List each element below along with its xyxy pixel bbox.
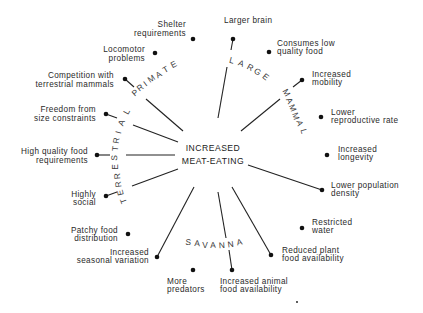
category-letter: A: [194, 238, 200, 248]
label-population-2: density: [331, 189, 360, 198]
connector-animal-food: [218, 192, 226, 238]
label-competition-1: Competition with: [48, 71, 114, 80]
meat-eating-factor-diagram: INCREASED MEAT-EATING: [0, 0, 423, 313]
category-savanna: SAVANNA: [185, 237, 243, 251]
dot-brain: [231, 37, 236, 42]
label-high-quality-1: High quality food: [21, 147, 88, 156]
category-terrestrial: TERRESTRIAL: [109, 107, 132, 205]
label-locomotor-1: Locomotor: [103, 45, 145, 54]
label-patchy-2: distribution: [74, 234, 118, 243]
dot-seasonal: [155, 255, 160, 260]
category-letter: N: [227, 239, 234, 250]
dot-mobility: [300, 78, 305, 83]
category-letter: T: [118, 197, 129, 205]
label-high-quality-2: requirements: [36, 156, 88, 165]
label-consumes-2: quality food: [277, 47, 323, 56]
dot-population: [320, 188, 325, 193]
connector-animal-food-short: [229, 250, 232, 270]
category-letter: A: [237, 58, 246, 70]
center-line-1: INCREASED: [186, 143, 241, 153]
dot-plant-food: [269, 253, 274, 258]
category-letter: I: [113, 130, 123, 135]
category-letter: R: [112, 173, 122, 180]
label-freedom-2: size constraints: [34, 114, 96, 123]
label-competition-2: terrestrial mammals: [35, 80, 114, 89]
connector-mobility: [241, 99, 280, 131]
dot-shelter: [191, 37, 196, 42]
category-letter: T: [161, 64, 170, 75]
stray-mark: [296, 301, 298, 303]
dot-competition: [123, 77, 128, 82]
category-letter: E: [110, 164, 120, 170]
dot-predators: [191, 268, 196, 273]
label-social-2: social: [73, 198, 96, 207]
category-letter: L: [298, 128, 309, 135]
connector-brain: [218, 67, 227, 118]
label-mobility-2: mobility: [312, 78, 343, 87]
connector-social: [132, 169, 178, 186]
label-longevity-2: longevity: [338, 153, 374, 162]
label-plant-food-2: food availability: [282, 254, 344, 263]
category-mammal: MAMMAL: [281, 87, 310, 135]
connector-freedom: [133, 125, 178, 142]
category-letter: S: [185, 237, 192, 247]
category-letter: R: [113, 181, 124, 188]
label-seasonal-2: seasonal variation: [77, 256, 149, 265]
category-letter: L: [228, 55, 235, 66]
category-letter: A: [210, 240, 216, 250]
category-letter: A: [116, 118, 128, 127]
dot-locomotor: [153, 51, 158, 56]
center-line-2: MEAT-EATING: [182, 156, 244, 166]
category-letter: S: [109, 155, 119, 161]
category-letter: A: [236, 237, 244, 248]
label-predators-2: predators: [167, 285, 205, 294]
label-brain: Larger brain: [224, 16, 272, 25]
connector-population: [248, 165, 322, 190]
category-letter: L: [121, 107, 132, 116]
category-letter: N: [218, 240, 225, 250]
dot-reproductive: [319, 115, 324, 120]
label-shelter-2: requirements: [134, 29, 186, 38]
dot-patchy: [126, 232, 131, 237]
dot-animal-food: [230, 268, 235, 273]
category-letter: A: [294, 119, 305, 128]
connector-lines: [97, 39, 322, 270]
central-concept: INCREASED MEAT-EATING: [182, 143, 244, 166]
dot-social: [104, 194, 109, 199]
dot-longevity: [325, 153, 330, 158]
category-letter: E: [261, 71, 272, 83]
dot-high-quality: [95, 153, 100, 158]
factor-labels: Shelter requirements Locomotor problems …: [21, 16, 399, 294]
label-shelter-1: Shelter: [158, 20, 186, 29]
label-freedom-1: Freedom from: [40, 105, 96, 114]
label-reproductive-2: reproductive rate: [331, 116, 398, 125]
category-letter: E: [114, 188, 125, 196]
connector-competition: [146, 99, 183, 131]
category-letter: T: [110, 146, 120, 152]
category-primate: PRIMATE: [130, 58, 179, 98]
category-letter: V: [202, 240, 208, 250]
dot-consumes: [267, 50, 272, 55]
label-water-2: water: [311, 226, 334, 235]
category-letter: R: [111, 137, 122, 145]
category-large: LARGE: [228, 55, 271, 83]
category-letter: E: [169, 58, 179, 70]
label-locomotor-2: problems: [109, 54, 145, 63]
label-animal-food-2: food availability: [220, 285, 282, 294]
dot-water: [300, 226, 305, 231]
dot-freedom: [104, 112, 109, 117]
